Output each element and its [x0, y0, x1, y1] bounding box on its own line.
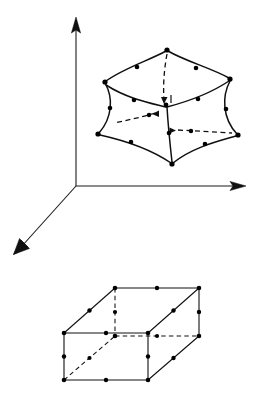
node-mid-front-left-vertical: [62, 354, 66, 358]
node-midside-hidden-right: [189, 129, 193, 133]
axis-x: [76, 181, 246, 190]
node-corner-upper-right: [227, 76, 232, 81]
node-center: [164, 103, 169, 108]
reference-hexahedron-box: [62, 286, 202, 383]
node-front-top-right: [146, 331, 151, 336]
axis-z: [71, 17, 80, 186]
hidden-edge-left-arrow-icon: [152, 111, 159, 118]
node-midside-lowerleft-bottom: [129, 140, 134, 145]
node-back-top-left: [113, 286, 118, 291]
node-corner-top: [164, 47, 169, 52]
outline-edge-top-upperright: [168, 51, 229, 78]
node-mid-front-right-vertical: [146, 354, 150, 358]
node-midside-lowerright-bottom: [203, 142, 208, 147]
node-mid-top-right-diagonal: [171, 308, 175, 312]
node-midside-top-upperright: [194, 66, 199, 71]
node-midside-top-upperleft: [135, 65, 140, 70]
node-corner-lower-right: [235, 132, 240, 137]
axis-y-arrowhead-icon-2: [14, 239, 29, 255]
interior-edge-center-to-upper-left: [106, 85, 166, 107]
curved-hexahedron: [95, 47, 240, 166]
outline-edge-lowerleft-bottom: [100, 135, 171, 163]
interior-edge-center-to-upper-right: [167, 81, 229, 107]
node-mid-back-left-vertical: [113, 310, 117, 314]
node-midside-center-upperleft: [132, 98, 137, 103]
node-mid-back-bottom-horizontal: [155, 334, 159, 338]
hidden-edge-center-to-right: [178, 130, 232, 133]
reference-box-nodes: [62, 286, 202, 383]
reference-box-hidden-edges: [64, 288, 199, 380]
curved-hexahedron-interior-edges: [106, 81, 229, 162]
node-midside-right-vertical: [224, 107, 229, 112]
node-mid-front-bottom-horizontal: [104, 378, 108, 382]
node-mid-top-front-horizontal: [104, 331, 108, 335]
node-corner-lower-left: [95, 131, 100, 136]
figure-root: Curvilinear hexahedral element and its r…: [0, 0, 257, 402]
node-back-bottom-left: [113, 334, 118, 339]
node-front-top-left: [62, 331, 67, 336]
node-midside-hidden-left: [147, 113, 151, 117]
node-mid-top-left-diagonal: [87, 308, 91, 312]
node-corner-bottom: [169, 161, 174, 166]
node-midside-center-bottom: [167, 131, 172, 136]
reference-box-visible-edges: [64, 288, 199, 380]
coordinate-axes: [14, 17, 247, 255]
outline-edge-lowerright-bottom: [173, 136, 236, 163]
figure-canvas: [0, 0, 257, 402]
node-corner-upper-left: [102, 79, 107, 84]
node-midside-center-upperright: [196, 97, 201, 102]
hidden-edge-top-to-center: [164, 54, 167, 100]
node-front-bottom-left: [62, 378, 67, 383]
node-front-bottom-right: [146, 378, 151, 383]
node-midside-left-vertical: [108, 106, 113, 111]
node-mid-top-back-horizontal: [155, 286, 159, 290]
curved-hexahedron-hidden-edges: [114, 54, 232, 134]
node-mid-bottom-right-diagonal: [171, 356, 175, 360]
node-back-bottom-right: [197, 334, 202, 339]
node-back-top-right: [197, 286, 202, 291]
axis-y: [14, 186, 77, 255]
axis-y-line: [22, 186, 76, 246]
node-mid-front-bottom-left-diagonal: [87, 356, 91, 360]
node-mid-back-right-vertical: [197, 310, 201, 314]
